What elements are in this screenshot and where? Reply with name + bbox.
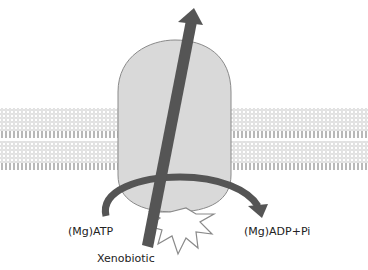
adp-label: (Mg)ADP+Pi: [244, 225, 310, 238]
atp-label: (Mg)ATP: [68, 225, 113, 238]
transporter-diagram: (Mg)ATP (Mg)ADP+Pi Xenobiotic: [0, 0, 368, 270]
xenobiotic-label: Xenobiotic: [97, 252, 155, 265]
